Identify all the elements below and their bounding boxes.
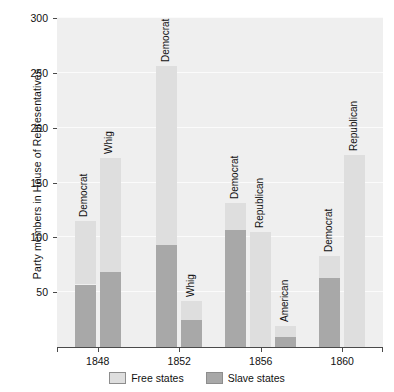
bar-segment-free-states [319,256,340,278]
y-axis-tick-label: 200 [18,122,48,134]
x-axis-tick-mark [98,347,99,352]
legend-swatch-slave-states [206,372,223,384]
bar-party-label: Whig [103,132,114,155]
x-axis-tick-mark [342,347,343,352]
bar-1856-american [275,326,296,347]
bar-1852-democrat [156,66,177,347]
legend-swatch-free-states [109,372,126,384]
bar-segment-free-states [156,66,177,245]
bar-party-label: Democrat [160,19,171,62]
bar-1860-democrat [319,256,340,347]
bar-segment-free-states [100,158,121,272]
x-axis-tick-label-1848: 1848 [86,355,109,367]
legend-item-slave-states: Slave states [206,372,285,384]
x-axis-tick-label-1856: 1856 [249,355,272,367]
bar-segment-slave-states [319,278,340,347]
bar-segment-slave-states [75,285,96,348]
bar-segment-free-states [344,155,365,347]
legend-label-slave-states: Slave states [228,372,285,384]
x-axis-tick-mark-end [382,347,383,352]
bar-segment-free-states [275,326,296,337]
y-axis-tick-mark [53,73,57,74]
bar-party-label: Democrat [323,209,334,252]
bar-segment-slave-states [156,245,177,347]
bar-segment-slave-states [100,272,121,347]
y-axis-tick-mark [53,292,57,293]
bar-segment-free-states [225,203,246,229]
bar-party-label: Whig [185,274,196,297]
bar-party-label: Republican [254,178,265,228]
bar-segment-slave-states [225,230,246,347]
bar-1860-republican [344,155,365,347]
legend: Free states Slave states [0,372,394,384]
y-axis-tick-mark [53,183,57,184]
bar-1848-democrat [75,221,96,347]
bar-1852-whig [181,301,202,347]
x-axis-tick-mark [179,347,180,352]
x-axis-tick-mark-start [57,347,58,352]
bar-party-label: Republican [348,101,359,151]
bar-chart: Party members in House of Representative… [0,0,394,392]
bar-segment-free-states [181,301,202,320]
y-axis-tick-label: 300 [18,12,48,24]
legend-item-free-states: Free states [109,372,184,384]
x-axis-tick-label-1860: 1860 [331,355,354,367]
bar-party-label: American [279,280,290,322]
bar-party-label: Democrat [229,156,240,199]
bars-layer: DemocratWhigDemocratWhigDemocratRepublic… [57,18,383,347]
y-axis-title: Party members in House of Representative… [31,54,43,294]
y-axis-tick-mark [53,237,57,238]
bar-segment-free-states [75,221,96,285]
plot-area: DemocratWhigDemocratWhigDemocratRepublic… [57,18,383,347]
bar-1856-democrat [225,203,246,347]
y-axis-tick-label: 150 [18,177,48,189]
y-axis-tick-label: 250 [18,67,48,79]
bar-1848-whig [100,158,121,347]
bar-segment-slave-states [275,337,296,347]
bar-segment-free-states [250,232,271,347]
x-axis-tick-label-1852: 1852 [168,355,191,367]
x-axis-tick-mark [261,347,262,352]
bar-party-label: Democrat [78,174,89,217]
bar-1856-republican [250,232,271,347]
y-axis-tick-label: 50 [18,286,48,298]
y-axis-tick-mark [53,128,57,129]
x-axis-line [57,347,383,348]
y-axis-tick-mark [53,18,57,19]
bar-segment-slave-states [181,320,202,347]
legend-label-free-states: Free states [131,372,184,384]
y-axis-tick-label: 100 [18,231,48,243]
